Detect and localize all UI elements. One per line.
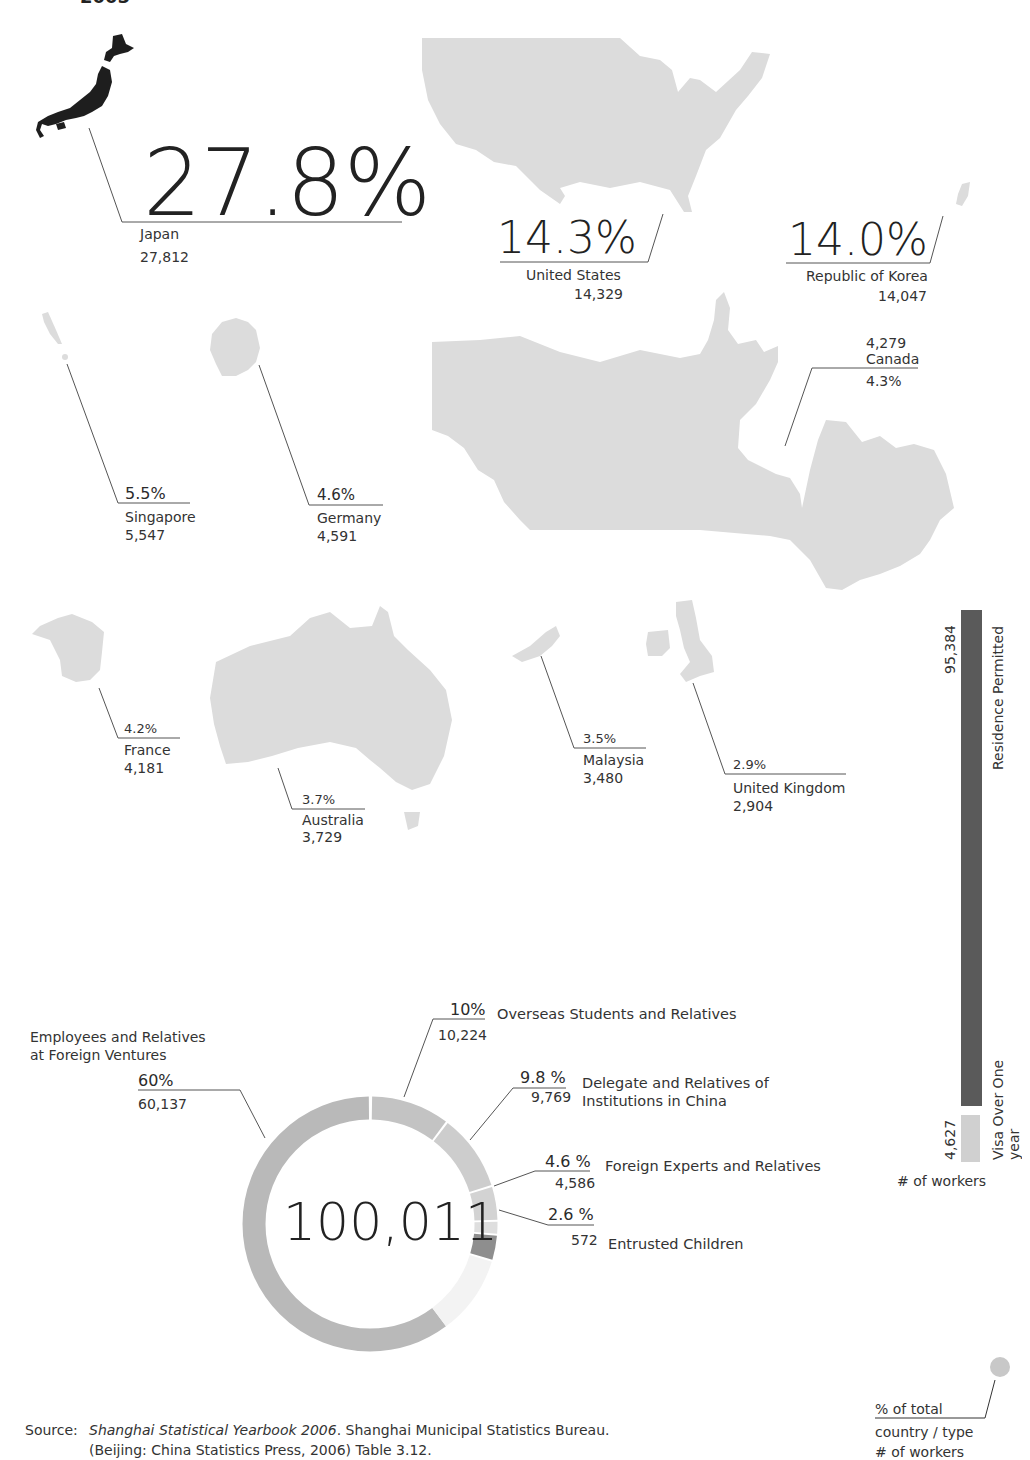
experts-label: Foreign Experts and Relatives (605, 1158, 821, 1174)
australia-workers: 3,729 (302, 828, 342, 846)
visa-over-one-year-bar (961, 1115, 980, 1162)
employees-label-line1: Employees and Relatives (30, 1028, 206, 1046)
germany-percent: 4.6% (317, 486, 355, 504)
japan-label: Japan (140, 225, 179, 243)
canada-percent: 4.3% (866, 372, 902, 390)
overseas-percent: 10% (450, 1000, 486, 1019)
australia-label: Australia (302, 811, 364, 829)
source-citation: Shanghai Statistical Yearbook 2006. Shan… (89, 1420, 609, 1440)
korea-map-icon (956, 182, 970, 206)
delegate-percent: 9.8 % (520, 1068, 566, 1087)
france-workers: 4,181 (124, 759, 164, 777)
employees-label-line2: at Foreign Ventures (30, 1046, 167, 1064)
japan-workers: 27,812 (140, 248, 189, 266)
germany-workers: 4,591 (317, 527, 357, 545)
korea-percent: 14.0% (788, 218, 928, 262)
korea-label: Republic of Korea (806, 267, 928, 285)
malaysia-workers: 3,480 (583, 769, 623, 787)
malaysia-map-icon (512, 626, 560, 662)
source-label: Source: (25, 1420, 78, 1440)
france-map-icon (32, 614, 104, 682)
experts-percent: 4.6 % (545, 1152, 591, 1171)
singapore-leader-line (67, 364, 190, 503)
france-percent: 4.2% (124, 720, 157, 738)
uk-leader-line (693, 683, 846, 774)
legend-dot-icon (990, 1357, 1010, 1377)
australia-percent: 3.7% (302, 791, 335, 809)
delegate-label-line1: Delegate and Relatives of (582, 1075, 769, 1091)
singapore-label: Singapore (125, 508, 196, 526)
usa-map-icon (422, 38, 770, 212)
delegate-workers: 9,769 (531, 1088, 571, 1106)
uk-label: United Kingdom (733, 779, 845, 797)
uk-map-icon (676, 600, 714, 682)
source-rest: . Shanghai Municipal Statistics Bureau. (337, 1422, 610, 1438)
residence-permitted-value: 95,384 (942, 614, 958, 674)
children-label: Entrusted Children (608, 1236, 744, 1252)
legend-percent-label: % of total (875, 1400, 943, 1418)
visa-label: Visa Over One year (990, 1030, 1022, 1160)
source-title: Shanghai Statistical Yearbook 2006 (89, 1422, 337, 1438)
japan-percent: 27.8% (143, 138, 430, 230)
singapore-percent: 5.5% (125, 484, 166, 503)
visa-value: 4,627 (942, 1114, 958, 1160)
legend-country-label: country / type (875, 1423, 973, 1441)
residence-permitted-bar (961, 610, 982, 1106)
children-workers: 572 (571, 1231, 598, 1249)
us-workers: 14,329 (574, 285, 623, 303)
overseas-label: Overseas Students and Relatives (497, 1006, 737, 1022)
japan-map-icon (36, 34, 134, 138)
canada-label: Canada (866, 350, 919, 368)
children-percent: 2.6 % (548, 1205, 594, 1224)
france-label: France (124, 741, 171, 759)
malaysia-label: Malaysia (583, 751, 644, 769)
singapore-workers: 5,547 (125, 526, 165, 544)
delegate-label-line2: Institutions in China (582, 1093, 727, 1109)
germany-map-icon (210, 318, 260, 376)
us-label: United States (526, 266, 621, 284)
germany-label: Germany (317, 509, 381, 527)
us-percent: 14.3% (497, 216, 637, 260)
singapore-map-icon (42, 312, 62, 344)
experts-workers: 4,586 (555, 1174, 595, 1192)
employees-workers: 60,137 (138, 1095, 187, 1113)
source-line2: (Beijing: China Statistics Press, 2006) … (89, 1440, 432, 1460)
overseas-workers: 10,224 (438, 1026, 487, 1044)
donut-total: 100,011 (283, 1192, 498, 1252)
ireland-map-icon (646, 630, 670, 656)
residence-permitted-label: Residence Permitted (990, 620, 1006, 770)
uk-percent: 2.9% (733, 756, 766, 774)
workers-axis-label: # of workers (897, 1172, 986, 1190)
malaysia-percent: 3.5% (583, 730, 616, 748)
legend-workers-label: # of workers (875, 1443, 964, 1460)
employees-percent: 60% (138, 1071, 174, 1090)
germany-leader-line (259, 365, 383, 505)
australia-map-icon (210, 606, 452, 790)
korea-workers: 14,047 (878, 287, 927, 305)
uk-workers: 2,904 (733, 797, 773, 815)
